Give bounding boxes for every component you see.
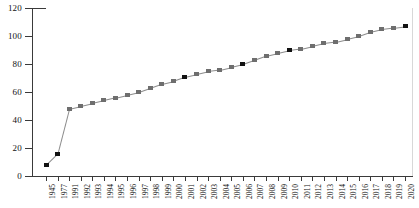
line-segment	[57, 109, 70, 154]
line-chart: 020406080100120 194519771991199219931994…	[0, 0, 419, 208]
y-axis-tick	[25, 64, 32, 65]
data-point-marker	[125, 93, 130, 97]
x-axis-tick	[289, 176, 290, 181]
y-axis-label: 60	[13, 88, 22, 97]
x-axis-label: 2007	[257, 184, 265, 199]
x-axis-label: 2003	[211, 184, 219, 199]
x-axis-tick	[46, 176, 47, 181]
data-point-marker	[55, 152, 60, 156]
frame-top-corner	[32, 8, 46, 9]
y-axis-label: 20	[13, 144, 22, 153]
y-axis-tick	[25, 36, 32, 37]
x-axis-label: 2006	[246, 184, 254, 199]
data-point-marker	[78, 104, 83, 108]
x-axis-tick	[197, 176, 198, 181]
x-axis-label: 2008	[269, 184, 277, 199]
y-axis-label: 0	[17, 172, 22, 181]
data-point-marker	[321, 41, 326, 45]
data-point-marker	[206, 69, 211, 73]
y-axis-label: 80	[13, 60, 22, 69]
data-point-marker	[333, 40, 338, 44]
x-axis-tick	[243, 176, 244, 181]
x-axis-label: 1945	[49, 184, 57, 199]
data-point-marker	[391, 26, 396, 30]
x-axis-label: 2001	[188, 184, 196, 199]
data-point-marker	[403, 24, 408, 28]
x-axis-tick	[115, 176, 116, 181]
x-axis-tick	[208, 176, 209, 181]
data-point-marker	[368, 30, 373, 34]
data-point-marker	[67, 107, 72, 111]
x-axis-tick	[347, 176, 348, 181]
y-axis-tick	[25, 176, 32, 177]
x-axis-label: 2020	[408, 184, 416, 199]
data-point-marker	[310, 44, 315, 48]
y-axis-label: 40	[13, 116, 22, 125]
x-axis-label: 1991	[72, 184, 80, 199]
data-point-marker	[182, 75, 187, 79]
x-axis-label: 2018	[385, 184, 393, 199]
x-axis-tick	[104, 176, 105, 181]
x-axis-tick	[278, 176, 279, 181]
x-axis-tick	[301, 176, 302, 181]
data-point-marker	[345, 37, 350, 41]
x-axis-label: 2013	[327, 184, 335, 199]
data-point-marker	[171, 79, 176, 83]
data-point-marker	[298, 47, 303, 51]
x-axis-tick	[359, 176, 360, 181]
x-axis-line	[32, 176, 413, 177]
x-axis-tick	[127, 176, 128, 181]
x-axis-label: 2000	[176, 184, 184, 199]
data-point-marker	[159, 82, 164, 86]
x-axis-label: 2012	[315, 184, 323, 199]
x-axis-label: 2015	[350, 184, 358, 199]
data-point-marker	[287, 48, 292, 52]
x-axis-tick	[185, 176, 186, 181]
y-axis-tick	[25, 92, 32, 93]
plot-area: 020406080100120 194519771991199219931994…	[32, 8, 413, 176]
x-axis-label: 2019	[396, 184, 404, 199]
y-axis-label: 120	[8, 4, 22, 13]
data-point-marker	[113, 96, 118, 100]
x-axis-tick	[254, 176, 255, 181]
data-point-marker	[148, 86, 153, 90]
x-axis-tick	[220, 176, 221, 181]
y-axis-line	[32, 8, 33, 176]
data-point-marker	[252, 58, 257, 62]
x-axis-label: 2010	[292, 184, 300, 199]
x-axis-label: 2014	[339, 184, 347, 199]
data-point-marker	[90, 101, 95, 105]
data-point-marker	[136, 90, 141, 94]
x-axis-tick	[312, 176, 313, 181]
x-axis-label: 1977	[61, 184, 69, 199]
x-axis-tick	[58, 176, 59, 181]
x-axis-tick	[393, 176, 394, 181]
x-axis-label: 2002	[200, 184, 208, 199]
data-point-marker	[240, 62, 245, 66]
x-axis-label: 2009	[281, 184, 289, 199]
x-axis-tick	[370, 176, 371, 181]
x-axis-tick	[336, 176, 337, 181]
x-axis-tick	[382, 176, 383, 181]
x-axis-label: 1993	[95, 184, 103, 199]
x-axis-tick	[150, 176, 151, 181]
x-axis-tick	[92, 176, 93, 181]
data-point-marker	[229, 65, 234, 69]
x-axis-label: 1999	[165, 184, 173, 199]
frame-right-border	[412, 8, 413, 176]
data-point-marker	[379, 27, 384, 31]
data-point-marker	[194, 72, 199, 76]
x-axis-tick	[139, 176, 140, 181]
y-axis-label: 100	[8, 32, 22, 41]
y-axis-tick	[25, 8, 32, 9]
data-point-marker	[44, 163, 49, 167]
x-axis-tick	[266, 176, 267, 181]
x-axis-label: 2016	[362, 184, 370, 199]
x-axis-tick	[173, 176, 174, 181]
x-axis-tick	[405, 176, 406, 181]
x-axis-tick	[69, 176, 70, 181]
x-axis-label: 1995	[118, 184, 126, 199]
data-point-marker	[101, 98, 106, 102]
x-axis-label: 2011	[304, 184, 312, 199]
x-axis-label: 1992	[84, 184, 92, 199]
